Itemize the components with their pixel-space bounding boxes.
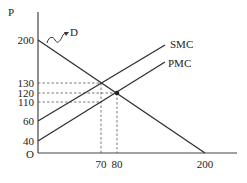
origin-label: O <box>26 149 34 160</box>
y-tick-60: 60 <box>4 116 34 127</box>
y-tick-110: 110 <box>4 97 34 108</box>
pmc-line <box>38 62 165 141</box>
smc-label: SMC <box>170 39 193 50</box>
y-tick-40: 40 <box>4 136 34 147</box>
d-curly-arrow-icon <box>47 33 67 43</box>
dashed-guides <box>38 83 117 153</box>
y-tick-200: 200 <box>4 35 34 46</box>
x-tick-200: 200 <box>195 159 215 170</box>
chart-plot <box>0 0 247 183</box>
x-tick-80: 80 <box>107 159 127 170</box>
y-axis-label: P <box>8 7 14 18</box>
pmc-label: PMC <box>168 58 191 69</box>
chart: P D SMC PMC 200 130 120 110 60 40 O 70 8… <box>0 0 247 183</box>
equilibrium-point <box>115 91 120 96</box>
demand-label: D <box>70 27 78 38</box>
